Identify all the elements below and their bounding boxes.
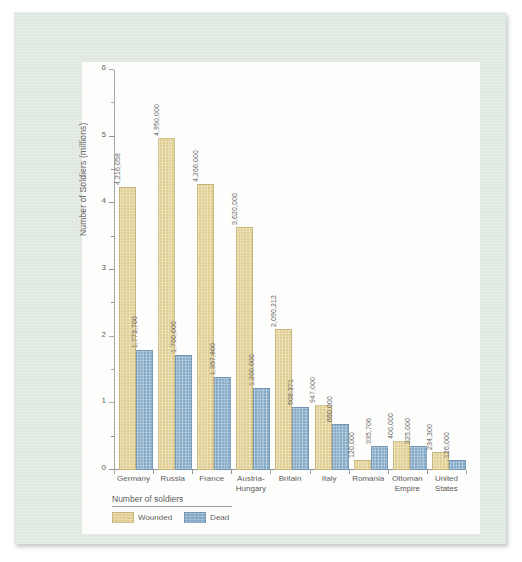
y-axis-title: Number of Soldiers (millions) bbox=[78, 56, 88, 236]
y-tick-minor bbox=[111, 102, 114, 103]
chart-card: Number of Soldiers (millions) 0123456 4,… bbox=[82, 62, 480, 534]
bar-value-label-text: 126,000 bbox=[443, 432, 450, 458]
bar-value-label: 2,090,212 bbox=[277, 311, 284, 343]
bar-value-label: 234,300 bbox=[433, 437, 440, 463]
bar-value-label: 325,000 bbox=[411, 431, 418, 457]
legend: Number of soldiers WoundedDead bbox=[112, 494, 302, 523]
bar-value-label: 1,357,800 bbox=[216, 359, 223, 391]
bar-dead[interactable]: 335,706 bbox=[371, 446, 388, 470]
bar-value-label-text: 400,000 bbox=[387, 413, 394, 439]
bar-value-label: 908,371 bbox=[294, 392, 301, 418]
y-tick-major: 5 bbox=[109, 136, 114, 137]
y-tick-major: 3 bbox=[109, 269, 114, 270]
x-category-label-line: United bbox=[423, 474, 469, 484]
bar-value-label: 660,000 bbox=[333, 409, 340, 435]
x-category-label-line: States bbox=[423, 484, 469, 494]
bar-wounded[interactable]: 400,000 bbox=[393, 441, 410, 470]
bar-group: 3,620,0001,200,000 bbox=[234, 70, 273, 470]
y-tick-major: 4 bbox=[109, 202, 114, 203]
bar-value-label: 1,700,000 bbox=[177, 337, 184, 369]
plot-axes-area: 0123456 4,216,0581,773,7004,950,0001,700… bbox=[114, 70, 466, 470]
bar-value-label: 947,000 bbox=[316, 390, 323, 416]
bar-value-label: 120,000 bbox=[355, 445, 362, 471]
bar-wounded[interactable]: 3,620,000 bbox=[236, 227, 253, 470]
legend-item-dead[interactable]: Dead bbox=[184, 512, 229, 523]
plot-wrapper: Number of Soldiers (millions) 0123456 4,… bbox=[82, 62, 480, 534]
bar-group: 120,000335,706 bbox=[352, 70, 391, 470]
bar-value-label-text: 4,266,000 bbox=[192, 150, 199, 182]
y-tick-label: 4 bbox=[102, 196, 106, 205]
y-tick-minor bbox=[111, 236, 114, 237]
y-tick-label: 1 bbox=[102, 396, 106, 405]
bar-group: 4,266,0001,357,800 bbox=[195, 70, 234, 470]
bar-group: 2,090,212908,371 bbox=[273, 70, 312, 470]
bar-value-label-text: 4,216,058 bbox=[114, 153, 121, 185]
bar-dead[interactable]: 1,700,000 bbox=[175, 355, 192, 470]
bar-dead[interactable]: 1,200,000 bbox=[253, 388, 270, 470]
bar-value-label-text: 1,700,000 bbox=[170, 321, 177, 353]
y-tick-major: 6 bbox=[109, 69, 114, 70]
bar-dead[interactable]: 126,000 bbox=[449, 460, 466, 470]
bar-value-label-text: 4,950,000 bbox=[153, 104, 160, 136]
bar-value-label-text: 1,200,000 bbox=[248, 354, 255, 386]
bar-value-label-text: 234,300 bbox=[426, 424, 433, 450]
paper-page-background: Number of Soldiers (millions) 0123456 4,… bbox=[14, 12, 506, 544]
y-tick-major: 2 bbox=[109, 336, 114, 337]
y-tick-minor bbox=[111, 369, 114, 370]
legend-label-dead: Dead bbox=[210, 513, 229, 522]
bar-value-label: 4,216,058 bbox=[121, 169, 128, 201]
bar-value-label-text: 1,773,700 bbox=[131, 316, 138, 348]
bar-value-label: 1,773,700 bbox=[138, 332, 145, 364]
bar-value-label-text: 325,000 bbox=[404, 418, 411, 444]
y-tick-minor bbox=[111, 436, 114, 437]
bar-group: 4,950,0001,700,000 bbox=[156, 70, 195, 470]
legend-items: WoundedDead bbox=[112, 512, 302, 523]
legend-swatch-dead bbox=[184, 512, 206, 523]
bar-dead[interactable]: 908,371 bbox=[292, 407, 309, 470]
bar-value-label: 335,706 bbox=[372, 431, 379, 457]
bar-value-label-text: 660,000 bbox=[326, 396, 333, 422]
bar-value-label-text: 120,000 bbox=[348, 432, 355, 458]
bar-wounded[interactable]: 4,266,000 bbox=[197, 184, 214, 470]
bar-group: 400,000325,000 bbox=[391, 70, 430, 470]
bar-value-label: 4,950,000 bbox=[160, 120, 167, 152]
bar-value-label: 400,000 bbox=[394, 426, 401, 452]
bar-group: 4,216,0581,773,700 bbox=[117, 70, 156, 470]
y-tick-label: 6 bbox=[102, 63, 106, 72]
bar-value-label: 3,620,000 bbox=[238, 209, 245, 241]
x-category-label: UnitedStates bbox=[423, 474, 469, 494]
y-tick-label: 3 bbox=[102, 263, 106, 272]
legend-item-wounded[interactable]: Wounded bbox=[112, 512, 172, 523]
bar-value-label-text: 2,090,212 bbox=[270, 295, 277, 327]
bar-dead[interactable]: 660,000 bbox=[332, 424, 349, 470]
bar-value-label-text: 1,357,800 bbox=[209, 343, 216, 375]
bar-value-label: 126,000 bbox=[450, 445, 457, 471]
bar-value-label-text: 335,706 bbox=[365, 418, 372, 444]
bar-wounded[interactable]: 4,950,000 bbox=[158, 138, 175, 470]
y-tick-minor bbox=[111, 302, 114, 303]
bar-value-label: 4,266,000 bbox=[199, 166, 206, 198]
legend-swatch-wounded bbox=[112, 512, 134, 523]
bar-dead[interactable]: 1,773,700 bbox=[136, 350, 153, 470]
y-tick-major: 1 bbox=[109, 402, 114, 403]
bar-wounded[interactable]: 120,000 bbox=[354, 460, 371, 470]
y-tick-label: 0 bbox=[102, 463, 106, 472]
y-tick-label: 2 bbox=[102, 330, 106, 339]
bar-value-label-text: 3,620,000 bbox=[231, 193, 238, 225]
bar-dead[interactable]: 325,000 bbox=[410, 446, 427, 470]
bar-group: 234,300126,000 bbox=[430, 70, 469, 470]
bar-value-label: 1,200,000 bbox=[255, 370, 262, 402]
legend-label-wounded: Wounded bbox=[138, 513, 172, 522]
bar-value-label-text: 908,371 bbox=[287, 379, 294, 405]
bar-group: 947,000660,000 bbox=[313, 70, 352, 470]
legend-title: Number of soldiers bbox=[112, 494, 232, 507]
x-category-label-line: Hungary bbox=[228, 484, 274, 494]
y-tick-label: 5 bbox=[102, 130, 106, 139]
bar-value-label-text: 947,000 bbox=[309, 377, 316, 403]
y-axis-line bbox=[114, 70, 115, 470]
bar-dead[interactable]: 1,357,800 bbox=[214, 377, 231, 470]
